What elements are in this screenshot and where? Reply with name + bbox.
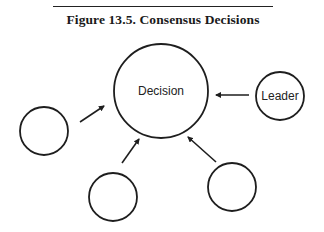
consensus-diagram: Decision Leader (0, 0, 324, 232)
figure: Figure 13.5. Consensus Decisions Decisio… (0, 0, 324, 232)
participant-bottom-left-circle (89, 173, 137, 221)
arrow-left-to-decision (80, 106, 104, 122)
participant-bottom-right-circle (208, 163, 256, 211)
node-leader: Leader (256, 72, 304, 120)
decision-label: Decision (138, 84, 184, 98)
participant-left-circle (20, 107, 68, 155)
arrow-bottom-right-to-decision (188, 137, 216, 162)
arrow-bottom-left-to-decision (122, 139, 139, 163)
leader-label: Leader (261, 89, 298, 103)
node-decision: Decision (114, 44, 208, 138)
